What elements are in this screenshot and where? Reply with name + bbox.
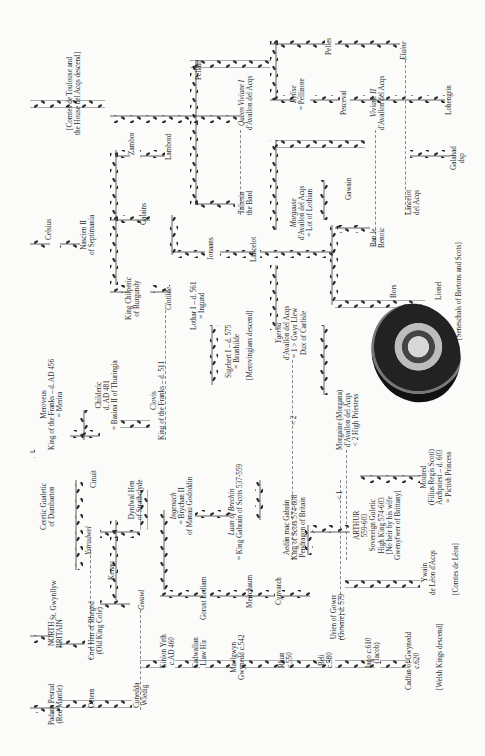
person-welsh_kings: [Welsh Kings descend] xyxy=(436,624,444,691)
person-line: Rhun xyxy=(278,652,286,668)
person-bors: Bors xyxy=(390,284,398,298)
person-urien: Urien of Gowrr(Gowrie) d. 579 xyxy=(330,594,346,640)
person-line: c.550 xyxy=(286,652,294,668)
person-line: [Seneschals of Bretons and Scots] xyxy=(455,242,463,340)
person-line: Gwynedd c.542 xyxy=(238,634,246,680)
person-line: = Brunhilde xyxy=(233,325,241,378)
person-line: Lancelot xyxy=(250,237,258,262)
person-line: of Manau Gododdin xyxy=(186,477,194,535)
person-line: Morgaine (Morgana) xyxy=(336,390,344,450)
person-meirchaum: Meirchaum xyxy=(246,575,254,608)
person-line: Llaw Hir xyxy=(200,637,208,668)
person-line: Benoic xyxy=(378,228,386,248)
person-elaine: Elaine xyxy=(400,41,408,60)
person-oetern: Oetern xyxy=(88,688,96,708)
person-seneschals: [Seneschals of Bretons and Scots] xyxy=(455,242,463,340)
person-line: c.580 xyxy=(326,652,334,668)
person-gwawl: Gwawl xyxy=(138,590,146,610)
person-rhun: Rhunc.550 xyxy=(278,652,294,668)
person-line: King of Scots 574-608 xyxy=(291,495,299,560)
person-line: Viviane II xyxy=(370,76,378,130)
person-line: Morgause xyxy=(290,186,298,240)
person-clotilde: Clotilde xyxy=(165,287,173,310)
person-einion: Einion Yrthc.AD 460 xyxy=(160,634,176,668)
person-line: Nascien II xyxy=(80,215,88,255)
person-line: = Ingund xyxy=(198,281,206,330)
person-line: Pendragon of Britain xyxy=(299,495,307,560)
person-line: Modred xyxy=(420,449,428,505)
person-line: = Basina II of Thuringia xyxy=(111,360,119,430)
person-ystradwel: Ystradwel xyxy=(85,526,93,555)
person-perceval: Perceval xyxy=(340,90,348,115)
person-line: Coel Hen of Rheged xyxy=(88,601,96,660)
person-line: Ingenach xyxy=(170,477,178,535)
person-line: [Comtes de Toulouse and xyxy=(66,52,74,135)
person-merovee: MeroveusKing of the Franks – d. AD 456= … xyxy=(40,359,65,450)
person-vivienne1: Queen Viviane Id'Avallon del Acqs xyxy=(238,76,254,130)
person-chilperic: King Chilpericof Burgundy xyxy=(125,277,141,320)
person-taliesin: Taliesinthe Bard xyxy=(238,190,254,215)
person-line: de Léon d'Acqs xyxy=(429,550,437,595)
person-line: Einion Yrth xyxy=(160,634,168,668)
person-line: Wledig xyxy=(141,682,149,708)
person-jonaans: Jonaans xyxy=(207,237,215,260)
marriage-order-mark: < 2 xyxy=(290,416,298,425)
person-line: King of the Franks – d. AD 456 xyxy=(48,359,56,450)
person-line: Ywain xyxy=(421,550,429,595)
person-line: Gorust Lediam xyxy=(200,577,208,620)
person-line: NORTH xyxy=(48,619,56,648)
person-zambor: Zambor xyxy=(128,132,136,155)
person-line: Meirchaum xyxy=(246,575,254,608)
person-padarn: Padarn Pesrud(Red Mantle) xyxy=(48,684,64,725)
person-coel_hen: Coel Hen of Rheged(Old King Cole) xyxy=(88,601,104,660)
person-gorust: Gorust Lediam xyxy=(200,577,208,620)
person-line: ARTHUR xyxy=(353,491,361,560)
person-line: [No heir by his wife xyxy=(386,491,394,560)
person-lohengrin: Lohengrin xyxy=(445,85,453,115)
person-line: Cunedda xyxy=(133,682,141,708)
genealogy-chart: Padarn Pesrud(Red Mantle)OeternCuneddaWl… xyxy=(0,0,485,756)
person-line: Cadfan of Gwynedd xyxy=(405,632,413,690)
person-line: Cinuit xyxy=(90,470,98,488)
person-line: Aedán mac Gabrán xyxy=(283,495,291,560)
person-morgaine: Morgaine (Morgana)d'Avallon del Acqs< 2 … xyxy=(336,390,361,450)
person-gawain: Gawain xyxy=(345,178,353,200)
person-line: c.AD 460 xyxy=(168,634,176,668)
person-pellam: Pellam xyxy=(195,60,203,80)
person-pelles: Pelles xyxy=(325,38,333,55)
person-line: of Septimania xyxy=(88,215,96,255)
person-line: Gwenyfwer of Brittany] xyxy=(394,491,402,560)
person-line: Gwawl xyxy=(138,590,146,610)
person-line: (Red Mantle) xyxy=(56,684,64,725)
person-st_gwynllyw: St. Gwynllyw xyxy=(50,580,58,620)
person-line: Oetern xyxy=(88,688,96,708)
person-line: (Filius Regis Scoti) xyxy=(428,449,436,505)
person-line: Queen Viviane I xyxy=(238,76,246,130)
person-line: of Burgundy xyxy=(133,277,141,320)
person-lionel: Lionel xyxy=(435,281,443,300)
person-line: Taliesin xyxy=(238,190,246,215)
person-line: Maelgwyn xyxy=(230,634,238,680)
person-line: Sigebert I – d. 575 xyxy=(225,325,233,378)
person-kenau: Kenau xyxy=(108,561,116,580)
person-line: (Gowrie) d. 579 xyxy=(338,594,346,640)
person-galains: Galains xyxy=(140,203,148,225)
person-iago: Iago c.610(Jacob) xyxy=(365,638,381,668)
person-line: d'Avallon del Acqs xyxy=(298,186,306,240)
person-line: BRITAIN xyxy=(56,619,64,648)
person-line: [Comtes de Léon] xyxy=(452,543,460,595)
person-beli: Belic.580 xyxy=(318,652,334,668)
person-cadfan: Cadfan of Gwyneddc.620 xyxy=(405,632,421,690)
person-line: Elaine xyxy=(400,41,408,60)
person-ban: Ban leBenoic xyxy=(370,228,386,248)
person-line: Lohengrin xyxy=(445,85,453,115)
person-line: Ban le xyxy=(370,228,378,248)
person-line: Urien of Gowrr xyxy=(330,594,338,640)
person-line: Perceval xyxy=(340,90,348,115)
person-line: Lionel xyxy=(435,281,443,300)
person-lambord: Lambord xyxy=(165,134,173,160)
person-line: Cadwallan xyxy=(192,637,200,668)
person-nascien: Nascien IIof Septimania xyxy=(80,215,96,255)
person-line: (Old King Cole) xyxy=(96,601,104,660)
person-dynfwal: Dynfwal Henof Strathclyde xyxy=(128,479,144,520)
